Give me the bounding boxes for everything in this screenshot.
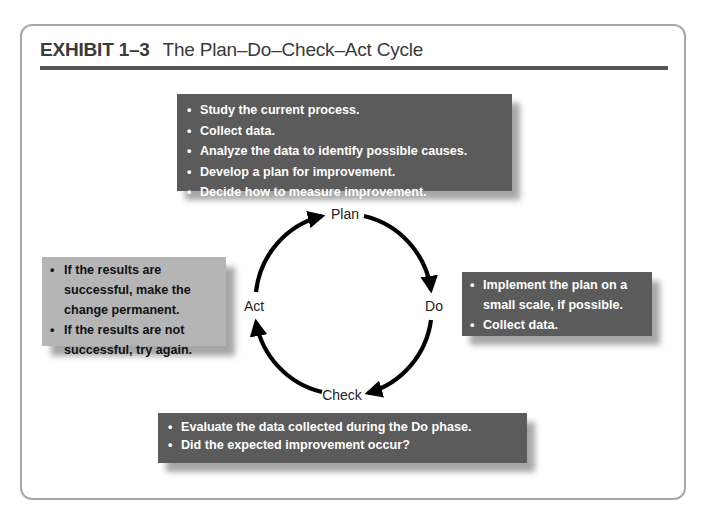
arrow-plan-to-do <box>364 216 431 290</box>
arrow-act-to-plan <box>256 216 322 292</box>
act-label: Act <box>244 298 264 314</box>
do-label: Do <box>425 298 443 314</box>
plan-label: Plan <box>331 206 359 222</box>
arrow-do-to-check <box>368 320 431 393</box>
arrow-check-to-act <box>256 322 322 392</box>
cycle-arrows-icon <box>0 0 707 518</box>
check-label: Check <box>322 387 362 403</box>
